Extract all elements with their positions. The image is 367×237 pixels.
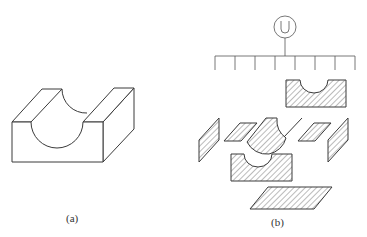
bottom-face [250,187,332,209]
u-symbol-icon [281,21,289,33]
diagram-canvas [0,0,367,237]
right-top-strip [298,123,331,141]
right-side-face [328,118,348,162]
tree-leaf-ticks [215,56,355,70]
panel-b-label: (b) [271,216,284,228]
groove-back-arc [62,89,87,113]
panel-b-tree [215,16,355,70]
front-face-u-profile [231,154,292,181]
block-left-top [12,89,62,122]
groove-projection-line [284,118,302,137]
root-node-circle [274,16,296,38]
block-front-face [12,122,103,162]
back-face-u-profile [286,80,346,107]
panel-b-faces [199,80,348,209]
panel-a-label: (a) [66,212,78,224]
left-side-face [199,118,219,162]
panel-a-block [12,88,134,162]
